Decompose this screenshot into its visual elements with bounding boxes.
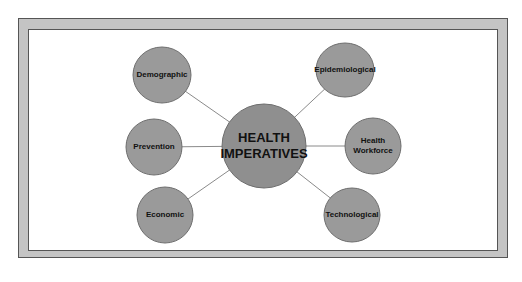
node-label-prevention: Prevention: [133, 142, 174, 152]
label-text: Epidemiological: [314, 65, 375, 75]
label-text: Technological: [325, 210, 378, 220]
center-label-line1: HEALTH: [220, 130, 307, 146]
node-label-health-workforce: Health Workforce: [353, 136, 392, 156]
label-text: Economic: [146, 210, 184, 220]
label-text-line2: Workforce: [353, 146, 392, 156]
center-label-line2: IMPERATIVES: [220, 146, 307, 162]
center-label: HEALTH IMPERATIVES: [220, 130, 307, 162]
label-text: Demographic: [136, 70, 187, 80]
node-label-technological: Technological: [325, 210, 378, 220]
label-text: Health: [353, 136, 392, 146]
node-label-economic: Economic: [146, 210, 184, 220]
label-text: Prevention: [133, 142, 174, 152]
node-label-demographic: Demographic: [136, 70, 187, 80]
node-label-epidemiological: Epidemiological: [314, 65, 375, 75]
